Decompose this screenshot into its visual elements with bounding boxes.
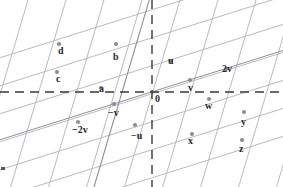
label-point-b: b xyxy=(113,52,119,62)
label-point-x: x xyxy=(188,136,193,146)
dot-neg-u xyxy=(133,123,137,127)
dot-z xyxy=(240,138,244,142)
label-point-u: u xyxy=(168,56,174,66)
u-line--3 xyxy=(0,0,60,187)
dot-y xyxy=(242,110,246,114)
label-point-w: w xyxy=(205,101,212,111)
label-point-z: z xyxy=(239,144,243,154)
scan-artifact-mark xyxy=(1,167,5,170)
label-point-neg-2v: −2v xyxy=(72,125,88,135)
label-point-d: d xyxy=(58,46,64,56)
label-point-v: v xyxy=(188,83,193,93)
label-point-a: a xyxy=(99,84,104,94)
lattice-canvas xyxy=(0,0,283,187)
label-point-neg-u: −u xyxy=(131,131,142,141)
u-axis-line xyxy=(94,0,188,187)
label-origin: 0 xyxy=(155,94,160,104)
label-point-y: y xyxy=(241,117,246,127)
label-point-2v: 2v xyxy=(222,64,232,74)
u-line--2 xyxy=(0,0,98,187)
dot-b xyxy=(114,42,118,46)
dot-neg-v xyxy=(112,102,116,106)
label-point-neg-v: −v xyxy=(108,108,119,118)
vector-lattice-figure: 0 d c b a u v 2v w y x z −v −2v −u xyxy=(0,0,283,187)
label-point-c: c xyxy=(56,74,60,84)
